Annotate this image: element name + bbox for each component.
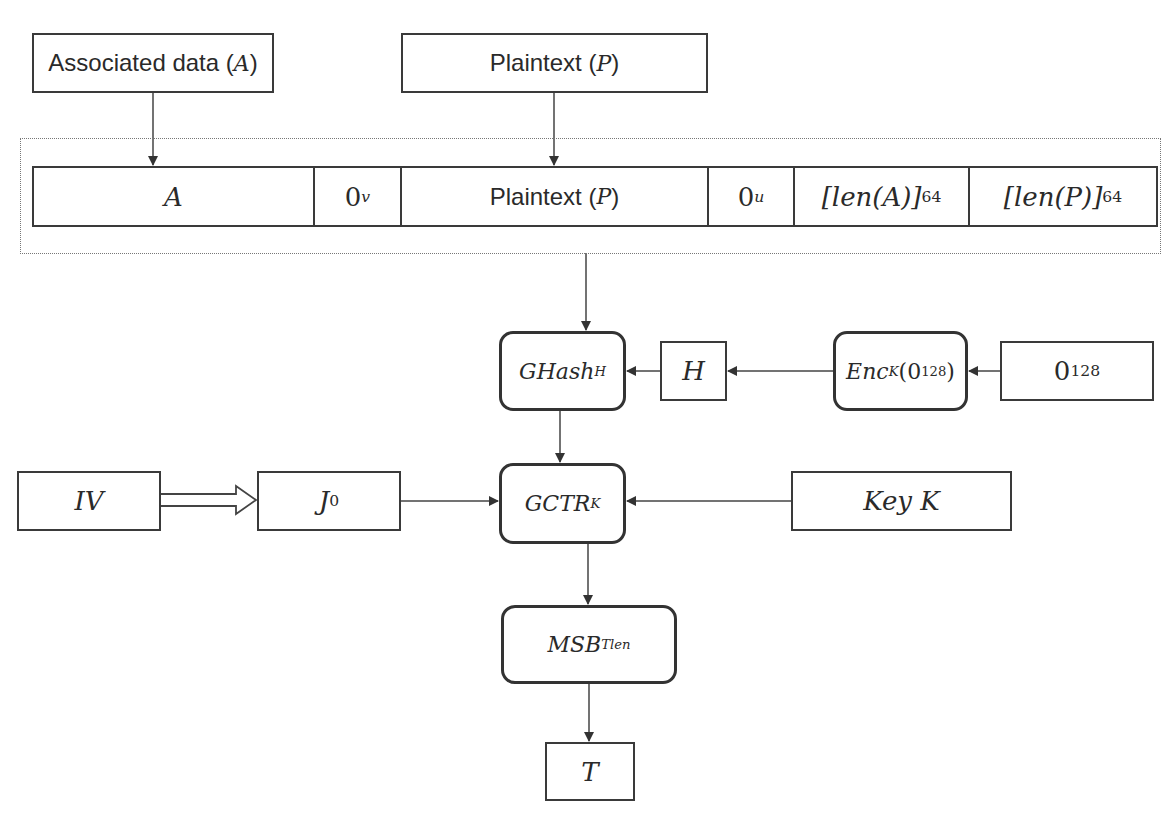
iv-node: IV xyxy=(17,471,161,531)
ghash-node: GHashH xyxy=(499,331,626,411)
cell-len-a: [len(A)]64 xyxy=(793,166,970,227)
plaintext-input-label: Plaintext xyxy=(490,49,582,77)
gcm-diagram: Associated data (A) Plaintext (P) A 0v P… xyxy=(0,0,1174,825)
key-node: Key K xyxy=(791,471,1012,531)
cell-zero-pad-v: 0v xyxy=(313,166,402,227)
tag-node: T xyxy=(545,742,635,801)
cell-len-p: [len(P)]64 xyxy=(968,166,1158,227)
enc-node: EncK(0128) xyxy=(833,331,968,411)
msb-node: MSBTlen xyxy=(501,605,677,684)
plaintext-input-box: Plaintext (P) xyxy=(401,33,708,93)
j0-node: J0 xyxy=(257,471,401,531)
cell-zero-pad-u: 0u xyxy=(707,166,795,227)
cell-a: A xyxy=(32,166,315,227)
zero-128-node: 0128 xyxy=(1000,341,1154,401)
cell-plaintext: Plaintext (P) xyxy=(400,166,709,227)
connectors xyxy=(0,0,1174,825)
associated-data-box: Associated data (A) xyxy=(32,33,274,93)
h-node: H xyxy=(660,341,727,401)
hollow-arrow-iv-to-j0 xyxy=(160,486,256,514)
associated-data-label: Associated data xyxy=(48,49,219,77)
gctr-node: GCTRK xyxy=(499,463,626,544)
